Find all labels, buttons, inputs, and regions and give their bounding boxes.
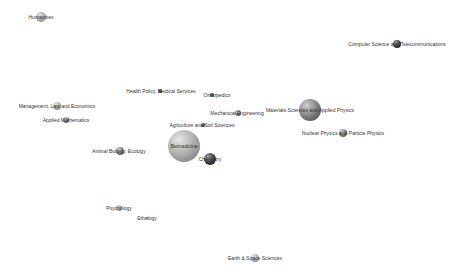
node-computer-science[interactable]	[393, 40, 401, 48]
node-chemistry[interactable]	[204, 153, 216, 165]
node-applied-mathematics[interactable]	[63, 117, 69, 123]
node-agriculture[interactable]	[201, 123, 205, 127]
node-label-orthopedics: Orthopedics	[204, 92, 231, 98]
node-humanities[interactable]	[36, 12, 46, 22]
node-earth-space[interactable]	[251, 254, 259, 262]
node-orthopedics[interactable]	[210, 93, 214, 97]
node-materials-sciences[interactable]	[299, 99, 321, 121]
node-health-policy[interactable]	[158, 89, 162, 93]
node-animal-biology[interactable]	[116, 147, 124, 155]
node-mechanical-engineering[interactable]	[235, 110, 241, 116]
node-biomedicine[interactable]	[168, 130, 200, 162]
science-bubble-map: HumanitiesComputer Science and Telecommu…	[0, 0, 464, 273]
node-nuclear-physics[interactable]	[339, 129, 347, 137]
node-management[interactable]	[53, 102, 61, 110]
node-ethology[interactable]	[146, 217, 148, 219]
node-psychology[interactable]	[116, 205, 122, 211]
